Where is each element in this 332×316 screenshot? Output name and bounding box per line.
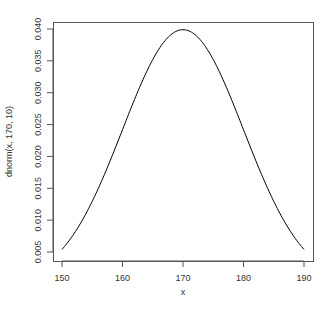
- plot-area-frame: [54, 23, 314, 262]
- x-tick-label: 190: [296, 273, 311, 283]
- x-axis-title: x: [181, 287, 186, 297]
- x-axis: 150160170180190: [54, 261, 311, 283]
- y-tick-label: 0.030: [33, 81, 43, 104]
- y-tick-label: 0.005: [33, 241, 43, 264]
- x-tick-label: 150: [54, 273, 69, 283]
- y-tick-label: 0.035: [33, 50, 43, 73]
- x-tick-label: 170: [175, 273, 190, 283]
- y-tick-label: 0.020: [33, 145, 43, 168]
- density-curve: [62, 30, 304, 250]
- y-tick-label: 0.025: [33, 113, 43, 136]
- x-tick-label: 180: [236, 273, 251, 283]
- y-tick-label: 0.010: [33, 209, 43, 232]
- y-tick-label: 0.015: [33, 177, 43, 200]
- y-tick-label: 0.040: [33, 18, 43, 41]
- y-axis-title: dnorm(x, 170, 10): [4, 106, 14, 177]
- x-tick-label: 160: [115, 273, 130, 283]
- y-axis: 0.0050.0100.0150.0200.0250.0300.0350.040: [33, 18, 53, 264]
- density-plot: 150160170180190 0.0050.0100.0150.0200.02…: [0, 0, 332, 316]
